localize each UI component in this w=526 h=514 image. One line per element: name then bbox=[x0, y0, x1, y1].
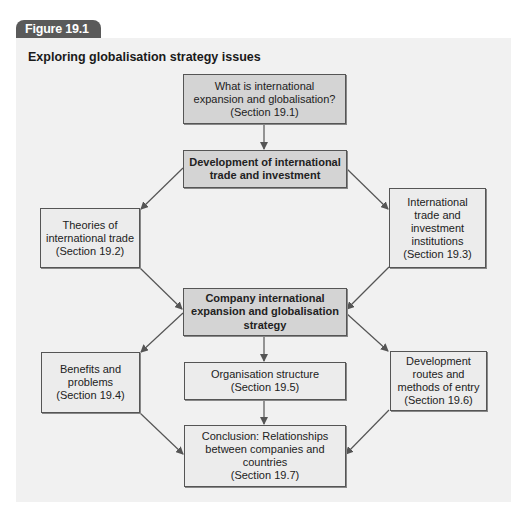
arrow-company-benefits bbox=[141, 313, 183, 352]
node-development-routes: Development routes and methods of entry … bbox=[390, 351, 487, 411]
arrow-development-theories bbox=[141, 168, 183, 209]
node-theories-trade: Theories of international trade (Section… bbox=[40, 208, 140, 268]
node-label: Organisation structure (Section 19.5) bbox=[211, 368, 319, 394]
node-label: Benefits and problems (Section 19.4) bbox=[56, 363, 124, 402]
node-label: International trade and investment insti… bbox=[403, 196, 471, 261]
arrow-company-routes bbox=[346, 313, 388, 351]
node-company-strategy: Company international expansion and glob… bbox=[183, 288, 347, 336]
node-label: Development routes and methods of entry … bbox=[398, 355, 480, 407]
node-conclusion: Conclusion: Relationships between compan… bbox=[184, 425, 346, 487]
node-label: Development of international trade and i… bbox=[189, 156, 341, 183]
node-label: Company international expansion and glob… bbox=[191, 292, 339, 333]
arrow-routes-conclusion bbox=[346, 410, 389, 454]
node-label: Conclusion: Relationships between compan… bbox=[202, 430, 329, 482]
arrow-institutions-company bbox=[347, 267, 389, 309]
node-label: What is international expansion and glob… bbox=[194, 80, 336, 119]
node-development-trade-investment: Development of international trade and i… bbox=[183, 150, 347, 188]
arrow-development-institutions bbox=[346, 168, 388, 209]
arrow-theories-company bbox=[140, 268, 182, 309]
arrow-benefits-conclusion bbox=[140, 413, 183, 454]
node-label: Theories of international trade (Section… bbox=[46, 219, 134, 258]
node-benefits-problems: Benefits and problems (Section 19.4) bbox=[41, 352, 140, 413]
node-trade-institutions: International trade and investment insti… bbox=[389, 188, 486, 268]
node-organisation-structure: Organisation structure (Section 19.5) bbox=[184, 362, 346, 400]
node-what-is-globalisation: What is international expansion and glob… bbox=[183, 74, 346, 124]
